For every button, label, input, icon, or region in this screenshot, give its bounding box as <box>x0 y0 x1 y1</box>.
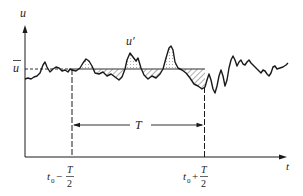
svg-text:2: 2 <box>201 178 206 189</box>
y-axis <box>23 25 28 157</box>
svg-text:T: T <box>67 164 74 175</box>
x-axis-arrow-icon <box>279 155 287 160</box>
left-bound-label: t 0 − T 2 <box>47 164 74 189</box>
y-axis-label: u <box>20 6 26 20</box>
svg-text:u: u <box>13 61 19 75</box>
turbulence-diagram: u t u u′ T t 0 − T 2 t 0 + T 2 <box>0 0 303 196</box>
right-arrow-icon <box>197 123 204 127</box>
y-axis-arrow-icon <box>23 25 28 33</box>
svg-text:+: + <box>192 170 198 182</box>
svg-text:0: 0 <box>51 177 55 185</box>
svg-text:0: 0 <box>187 177 191 185</box>
svg-text:2: 2 <box>67 178 72 189</box>
x-axis <box>25 155 287 160</box>
left-arrow-icon <box>73 123 80 127</box>
mean-label: u <box>13 61 21 76</box>
interval-label: T <box>135 118 143 132</box>
x-axis-label: t <box>286 160 290 172</box>
right-bound-label: t 0 + T 2 <box>183 164 208 189</box>
svg-text:−: − <box>56 170 62 182</box>
svg-text:T: T <box>201 164 208 175</box>
fluctuation-label: u′ <box>126 34 135 48</box>
